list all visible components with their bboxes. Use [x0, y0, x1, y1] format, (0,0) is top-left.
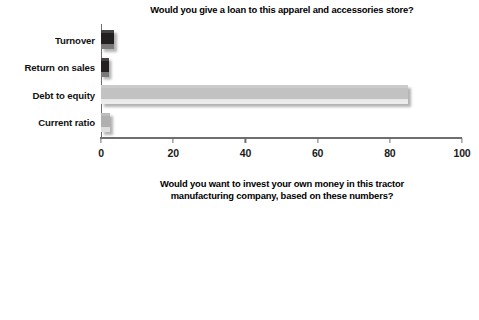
x-axis-tick — [389, 138, 390, 143]
bar-current-ratio — [101, 113, 110, 132]
x-axis-tick — [173, 138, 174, 143]
bar-return-on-sales — [101, 58, 109, 77]
chart-title-bottom-line2: manufacturing company, based on these nu… — [96, 190, 468, 202]
x-axis-tick-label: 60 — [312, 147, 323, 159]
chart-page: Would you give a loan to this apparel an… — [0, 0, 479, 320]
x-axis-tick-label: 100 — [454, 147, 471, 159]
x-axis-tick-label: 40 — [240, 147, 251, 159]
bar-category-label: Return on sales — [25, 62, 95, 73]
x-axis-tick-label: 80 — [384, 147, 395, 159]
chart-title-bottom-line1: Would you want to invest your own money … — [96, 178, 468, 190]
bar-row: Debt to equity — [101, 85, 462, 104]
bar-turnover — [101, 30, 114, 49]
bar-row: Current ratio — [101, 113, 462, 132]
x-axis-line-top — [100, 137, 462, 138]
x-axis-tick-label: 0 — [98, 147, 104, 159]
bar-category-label: Debt to equity — [32, 89, 95, 100]
bar-row: Return on sales — [101, 58, 462, 77]
chart-title-top: Would you give a loan to this apparel an… — [96, 4, 468, 16]
x-axis-tick-label: 20 — [168, 147, 179, 159]
bar-debt-to-equity — [101, 85, 408, 104]
x-axis-tick — [317, 138, 318, 143]
chart-loan-apparel-store: Would you give a loan to this apparel an… — [0, 0, 479, 165]
bar-row: Turnover — [101, 30, 462, 49]
x-axis-tick — [245, 138, 246, 143]
plot-area-top: Turnover Return on sales Debt to equity … — [101, 24, 462, 138]
bar-category-label: Turnover — [55, 34, 95, 45]
x-axis-tick — [100, 138, 101, 143]
chart-title-bottom: Would you want to invest your own money … — [96, 178, 468, 201]
x-axis-tick — [461, 138, 462, 143]
chart-invest-tractor-company: Would you want to invest your own money … — [0, 165, 479, 320]
bar-category-label: Current ratio — [38, 117, 95, 128]
